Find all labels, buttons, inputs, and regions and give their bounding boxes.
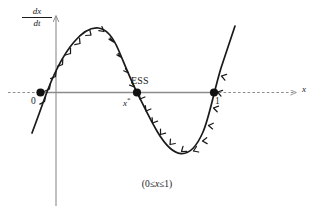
domain-caption-suffix: ≤1) (159, 179, 172, 189)
x-axis-label: x (302, 85, 306, 94)
ess-annotation: ESS (131, 76, 149, 86)
tick-label-one: 1 (215, 97, 220, 107)
y-axis-label: dx dt (22, 7, 52, 28)
dxdt-curve (32, 26, 235, 154)
tick-label-x-star: x* (123, 97, 131, 108)
point-origin-equilibrium (36, 88, 44, 96)
domain-caption: (0≤x≤1) (0, 180, 314, 190)
tick-label-x-star-sup: * (127, 96, 131, 104)
flow-arrows-lower-branch (139, 74, 226, 152)
phase-diagram-figure: dx dt x 0 x* 1 ESS (0≤x≤1) (0, 0, 314, 213)
y-axis-label-denominator: dt (22, 18, 52, 28)
y-axis-label-numerator: dx (22, 7, 52, 18)
point-interior-equilibrium-ess (133, 88, 141, 96)
tick-label-zero: 0 (31, 97, 36, 107)
domain-caption-prefix: (0≤ (142, 179, 155, 189)
